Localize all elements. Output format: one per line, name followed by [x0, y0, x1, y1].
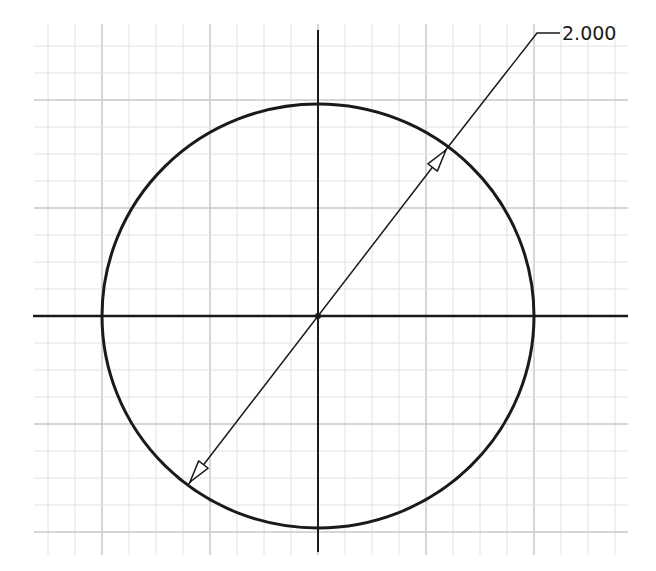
- sketch-canvas[interactable]: [0, 0, 656, 571]
- diameter-dimension[interactable]: [188, 33, 560, 485]
- arrowhead-upper-icon: [428, 150, 446, 171]
- diameter-dimension-value[interactable]: 2.000: [562, 24, 616, 43]
- arrowhead-lower-icon: [190, 461, 208, 482]
- dimension-leader-line: [448, 33, 560, 147]
- sketch-axes: [33, 30, 628, 552]
